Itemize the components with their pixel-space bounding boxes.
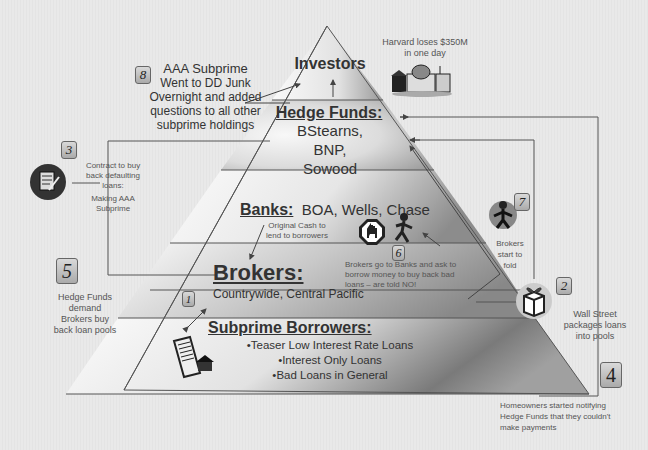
hedge-fund-item: BNP,	[290, 140, 370, 159]
step-6-line: Brokers go to Banks and ask to	[345, 260, 485, 270]
step-badge-2: 2	[556, 277, 572, 295]
step-3-note: Contract to buy back defaulting loans: M…	[78, 161, 148, 214]
step-2-line: packages loans	[560, 320, 630, 331]
hedge-fund-item: Sowood	[290, 159, 370, 178]
tier-title-investors: Investors	[290, 55, 370, 73]
step-badge-6: 6	[392, 245, 405, 261]
step-5-line: Hedge Funds	[45, 292, 125, 303]
step-7-line: start to	[488, 249, 532, 260]
stop-sign-icon	[358, 218, 386, 246]
loan-type-item: •Teaser Low Interest Rate Loans	[230, 338, 430, 353]
step-6-line: borrow money to buy back bad	[345, 270, 485, 280]
tier-title-banks: Banks:	[240, 201, 293, 218]
tier-banks: Banks: BOA, Wells, Chase	[240, 201, 470, 219]
step-6-note: Brokers go to Banks and ask to borrow mo…	[345, 260, 485, 290]
step-8-line: subprime holdings	[148, 118, 263, 132]
step-8-note: AAA Subprime Went to DD Junk Overnight a…	[148, 62, 263, 132]
original-cash-line: Original Cash to	[262, 221, 332, 231]
loan-papers-house-icon	[170, 335, 218, 380]
step-8-line: questions to all other	[148, 104, 263, 118]
step-4-note: Homeowners started notifying Hedge Funds…	[500, 400, 630, 433]
step-badge-3: 3	[61, 141, 77, 159]
step-badge-1: 1	[182, 291, 195, 307]
step-5-line: Brokers buy	[45, 314, 125, 325]
gift-box-icon	[514, 280, 554, 320]
university-buildings-icon	[390, 62, 455, 97]
tier-details-brokers: Countrywide, Central Pacific	[213, 287, 364, 301]
tier-title-hedge-funds: Hedge Funds:	[270, 104, 388, 122]
loan-type-item: •Bad Loans in General	[230, 368, 430, 383]
step-2-note: Wall Street packages loans into pools	[560, 309, 630, 342]
step-4-line: Homeowners started notifying	[500, 400, 630, 411]
tier-details-hedge-funds: BStearns, BNP, Sowood	[290, 121, 370, 178]
step-5-line: demand	[45, 303, 125, 314]
step-5-line: back loan pools	[45, 325, 125, 336]
step-6-line: loans – are told NO!	[345, 280, 485, 290]
step-8-line: AAA Subprime	[148, 62, 263, 76]
step-4-line: Hedge Funds that they couldn't	[500, 411, 630, 422]
step-2-line: into pools	[560, 331, 630, 342]
step-3-line: back defaulting	[78, 171, 148, 181]
step-7-line: Brokers	[488, 238, 532, 249]
step-4-line: make payments	[500, 422, 630, 433]
step-badge-5: 5	[56, 258, 78, 284]
step-2-line: Wall Street	[560, 309, 630, 320]
step-3-line: loans:	[78, 181, 148, 191]
tier-details-subprime-borrowers: •Teaser Low Interest Rate Loans •Interes…	[230, 338, 430, 383]
harvard-note-line: in one day	[380, 48, 470, 59]
step-5-note: Hedge Funds demand Brokers buy back loan…	[45, 292, 125, 336]
step-8-line: Overnight and added	[148, 90, 263, 104]
step-7-line: fold	[488, 260, 532, 271]
step-8-line: Went to DD Junk	[148, 76, 263, 90]
harvard-note: Harvard loses $350M in one day	[380, 37, 470, 59]
tier-title-brokers: Brokers:	[213, 260, 303, 286]
step-badge-4: 4	[600, 362, 622, 388]
original-cash-line: lend to borrowers	[262, 231, 332, 241]
contract-document-icon	[29, 163, 67, 201]
original-cash-note: Original Cash to lend to borrowers	[262, 221, 332, 241]
step-badge-7: 7	[514, 193, 530, 211]
running-man-icon	[392, 212, 418, 246]
step-7-note: Brokers start to fold	[488, 238, 532, 271]
loan-type-item: •Interest Only Loans	[230, 353, 430, 368]
hedge-fund-item: BStearns,	[290, 121, 370, 140]
harvard-note-line: Harvard loses $350M	[380, 37, 470, 48]
step-3-line: Making AAA	[78, 194, 148, 204]
step-3-line: Subprime	[78, 204, 148, 214]
tier-title-subprime-borrowers: Subprime Borrowers:	[208, 319, 372, 337]
step-3-line: Contract to buy	[78, 161, 148, 171]
